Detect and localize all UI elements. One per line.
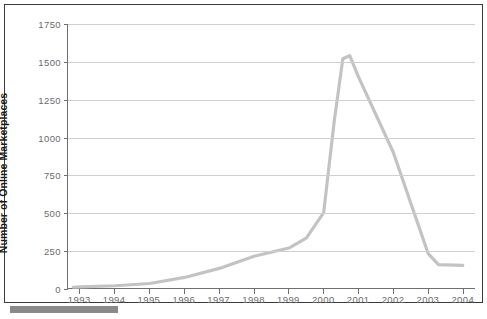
plot-area [67, 24, 475, 289]
y-tick-label: 1500 [38, 56, 61, 67]
y-tick-label: 1250 [38, 94, 61, 105]
y-tick-mark [64, 251, 68, 252]
y-gridline [68, 24, 475, 25]
y-tick-mark [64, 213, 68, 214]
x-tick-label: 1996 [172, 294, 195, 305]
y-tick-mark [64, 100, 68, 101]
x-tick-label: 1993 [68, 294, 91, 305]
y-tick-label: 250 [44, 246, 61, 257]
y-tick-mark [64, 24, 68, 25]
y-tick-mark [64, 175, 68, 176]
x-tick-label: 2004 [451, 294, 474, 305]
x-tick-label: 1998 [242, 294, 265, 305]
x-tick-label: 2001 [347, 294, 370, 305]
y-gridline [68, 251, 475, 252]
y-axis-tick-labels: 02505007501000125015001750 [19, 24, 61, 289]
y-tick-label: 750 [44, 170, 61, 181]
chart-frame: Number of Online Marketplaces 0250500750… [4, 4, 483, 303]
x-tick-label: 2002 [382, 294, 405, 305]
y-gridline [68, 175, 475, 176]
x-tick-label: 1994 [103, 294, 126, 305]
line-series-online-marketplaces [73, 56, 463, 288]
y-tick-label: 1750 [38, 19, 61, 30]
y-tick-mark [64, 138, 68, 139]
x-axis-tick-labels: 1993199419951996199719981999200020012002… [67, 294, 475, 310]
figure-shadow-strip [10, 306, 118, 313]
y-axis-title: Number of Online Marketplaces [0, 73, 9, 273]
y-tick-label: 1000 [38, 132, 61, 143]
y-gridline [68, 100, 475, 101]
y-gridline [68, 62, 475, 63]
x-tick-label: 1999 [277, 294, 300, 305]
y-tick-label: 500 [44, 208, 61, 219]
y-tick-label: 0 [55, 284, 61, 295]
line-series-svg [68, 24, 475, 288]
y-gridline [68, 138, 475, 139]
x-tick-label: 1997 [207, 294, 230, 305]
y-tick-mark [64, 62, 68, 63]
x-tick-label: 1995 [138, 294, 161, 305]
x-tick-label: 2003 [417, 294, 440, 305]
y-gridline [68, 213, 475, 214]
x-tick-label: 2000 [312, 294, 335, 305]
chart-figure: Number of Online Marketplaces 0250500750… [0, 0, 487, 319]
